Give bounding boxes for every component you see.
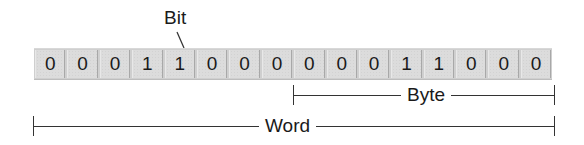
bit-cell: 0 xyxy=(488,50,518,78)
bit-cell: 1 xyxy=(424,50,454,78)
bit-cell: 1 xyxy=(132,50,162,78)
word-bracket-right-tick xyxy=(554,116,555,136)
bit-cell: 0 xyxy=(197,50,227,78)
bit-cell: 0 xyxy=(359,50,389,78)
bit-cell: 0 xyxy=(327,50,357,78)
bit-cell: 0 xyxy=(294,50,324,78)
bit-cell: 0 xyxy=(100,50,130,78)
bit-cell: 0 xyxy=(67,50,97,78)
bit-cell: 0 xyxy=(456,50,486,78)
bit-cell: 0 xyxy=(229,50,259,78)
word-bracket: Word xyxy=(33,116,555,138)
bit-cell: 1 xyxy=(165,50,195,78)
byte-label: Byte xyxy=(401,84,451,106)
byte-bracket-right-tick xyxy=(554,85,555,105)
bit-cell: 0 xyxy=(35,50,65,78)
bit-cell: 1 xyxy=(391,50,421,78)
bit-cells-row: 0 0 0 1 1 0 0 0 0 0 0 1 1 0 0 0 xyxy=(34,48,552,80)
bit-cell: 0 xyxy=(262,50,292,78)
word-label: Word xyxy=(259,115,316,137)
byte-bracket: Byte xyxy=(293,85,555,107)
bit-cell: 0 xyxy=(521,50,551,78)
